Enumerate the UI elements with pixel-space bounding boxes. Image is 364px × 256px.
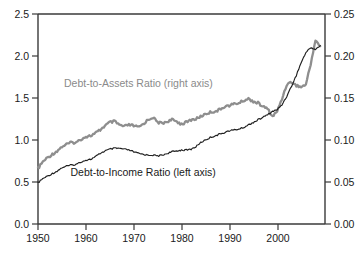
left-tick-label-3: 1.5 bbox=[14, 92, 29, 104]
dual-axis-line-chart: 0.0 0.5 1.0 1.5 2.0 2.5 0.00 0.05 0.10 0… bbox=[0, 0, 364, 256]
x-tick-label-1960: 1960 bbox=[74, 232, 98, 244]
left-tick-label-1: 0.5 bbox=[14, 176, 29, 188]
right-tick-label-5: 0.25 bbox=[334, 8, 355, 20]
left-tick-label-0: 0.0 bbox=[14, 218, 29, 230]
right-tick-label-4: 0.20 bbox=[334, 50, 355, 62]
right-tick-label-2: 0.10 bbox=[334, 134, 355, 146]
chart-container: 0.0 0.5 1.0 1.5 2.0 2.5 0.00 0.05 0.10 0… bbox=[0, 0, 364, 256]
right-tick-label-0: 0.00 bbox=[334, 218, 355, 230]
x-tick-label-1990: 1990 bbox=[218, 232, 242, 244]
x-tick-label-1980: 1980 bbox=[170, 232, 194, 244]
x-tick-label-2000: 2000 bbox=[266, 232, 290, 244]
right-tick-label-3: 0.15 bbox=[334, 92, 355, 104]
x-tick-label-1950: 1950 bbox=[26, 232, 50, 244]
chart-background bbox=[0, 0, 364, 256]
left-tick-label-4: 2.0 bbox=[14, 50, 29, 62]
series-label-debt-to-income: Debt-to-Income Ratio (left axis) bbox=[71, 166, 216, 178]
series-label-debt-to-assets: Debt-to-Assets Ratio (right axis) bbox=[64, 77, 213, 89]
left-tick-label-5: 2.5 bbox=[14, 8, 29, 20]
x-tick-label-1970: 1970 bbox=[122, 232, 146, 244]
right-tick-label-1: 0.05 bbox=[334, 176, 355, 188]
left-tick-label-2: 1.0 bbox=[14, 134, 29, 146]
